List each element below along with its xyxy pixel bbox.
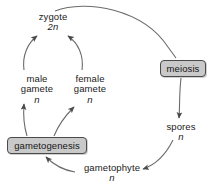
edge-gametophyte-to-gametogenesis xyxy=(46,157,75,172)
node-male-gamete-term2: gamete xyxy=(12,84,62,94)
node-spores-ploidy: n xyxy=(158,132,204,142)
node-gametophyte: gametophyte n xyxy=(74,163,150,184)
process-box-meiosis: meiosis xyxy=(160,60,206,77)
edge-female-gamete-to-zygote xyxy=(68,36,82,70)
life-cycle-diagram: zygote 2n male gamete n female gamete n … xyxy=(0,0,214,190)
process-box-gametogenesis: gametogenesis xyxy=(7,137,87,154)
node-spores: spores n xyxy=(158,122,204,143)
node-female-gamete-ploidy: n xyxy=(62,95,118,105)
node-zygote-ploidy: 2n xyxy=(26,22,80,32)
process-box-gametogenesis-label: gametogenesis xyxy=(14,140,80,151)
node-gametophyte-ploidy: n xyxy=(74,173,150,183)
node-female-gamete: female gamete n xyxy=(62,74,118,105)
edge-gametogenesis-to-female-gamete xyxy=(54,107,74,136)
edge-male-gamete-to-zygote xyxy=(24,36,37,70)
process-box-meiosis-label: meiosis xyxy=(167,63,200,74)
edge-meiosis-to-spores xyxy=(179,78,181,118)
node-male-gamete: male gamete n xyxy=(12,74,62,105)
node-zygote: zygote 2n xyxy=(26,12,80,33)
node-male-gamete-ploidy: n xyxy=(12,95,62,105)
node-female-gamete-term2: gamete xyxy=(62,84,118,94)
edge-gametogenesis-to-male-gamete xyxy=(24,104,27,136)
